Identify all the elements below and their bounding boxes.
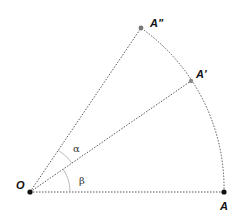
rotation-arc — [141, 28, 224, 192]
label-a: A — [219, 200, 228, 212]
label-a-double-prime: A" — [149, 17, 164, 29]
label-alpha: α — [73, 143, 80, 154]
segment-oa-prime — [30, 81, 191, 192]
label-beta: β — [79, 175, 85, 186]
point-o — [27, 189, 32, 194]
label-o: O — [16, 179, 25, 191]
label-a-prime: A' — [195, 68, 207, 80]
rotation-diagram: O A A' A" α β — [0, 0, 243, 218]
angle-alpha-arc — [58, 150, 72, 163]
angle-beta-arc — [63, 169, 70, 192]
segment-oa-double-prime — [30, 28, 141, 192]
point-a-double-prime — [139, 26, 144, 31]
point-a — [221, 189, 226, 194]
point-a-prime — [189, 79, 193, 83]
